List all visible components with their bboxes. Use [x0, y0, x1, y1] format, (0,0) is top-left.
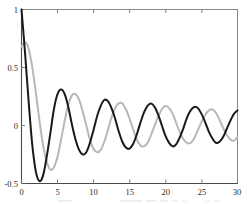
damped-oscillation-plot: 1 0.5 0 -0.5 0 5 10 15 20 25 30 [0, 0, 248, 204]
chart-figure: 1 0.5 0 -0.5 0 5 10 15 20 25 30 [0, 0, 248, 204]
ytick-label-1: 1 [14, 5, 18, 15]
xtick-label-20: 20 [162, 187, 171, 197]
xtick-label-5: 5 [55, 187, 59, 197]
xtick-label-30: 30 [233, 187, 242, 197]
xtick-label-10: 10 [89, 187, 98, 197]
xtick-label-25: 25 [198, 187, 207, 197]
xtick-label-15: 15 [125, 187, 134, 197]
ytick-label-neg-0-5: -0.5 [5, 179, 18, 189]
ytick-label-0-5: 0.5 [7, 63, 18, 73]
xtick-label-0: 0 [19, 187, 23, 197]
ytick-label-0: 0 [14, 121, 18, 131]
